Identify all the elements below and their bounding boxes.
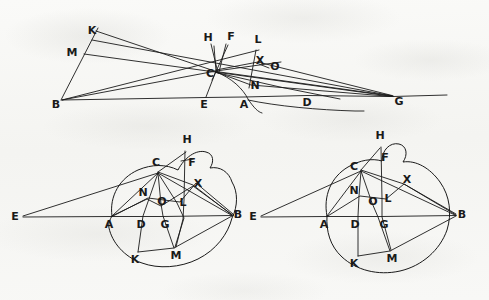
bl-line-C-H [158,152,186,172]
point-label-l: L [179,196,186,209]
point-label-g: G [379,218,388,231]
diagram-page: BKMECHFANLXODGEACHFXNOLDGBKMEACHFXNOLDGB… [0,0,489,300]
point-label-d: D [350,218,359,231]
bl-line-K-B [138,216,232,252]
point-label-o: O [157,195,166,208]
top-line-K-G [92,40,393,96]
bl-line-A-C [112,173,158,216]
point-label-h: H [182,133,191,146]
br-line-E-B [261,216,456,218]
br-line-K-B [358,216,456,256]
point-label-n: N [349,184,358,197]
point-label-e: E [249,210,257,223]
point-label-b: B [458,208,466,221]
point-label-d: D [136,218,145,231]
point-label-k: K [88,24,97,37]
point-label-x: X [194,177,203,190]
br-line-C-H [361,148,380,170]
top-line-B-L [62,50,259,100]
point-label-m: M [67,46,78,59]
point-label-a: A [320,218,329,231]
point-label-b: B [52,98,60,111]
point-label-b: B [234,208,242,221]
point-label-c: C [350,160,358,173]
point-label-l: L [384,192,391,205]
point-label-d: D [302,96,311,109]
point-labels-layer: BKMECHFANLXODGEACHFXNOLDGBKMEACHFXNOLDGB… [11,24,466,270]
bl-line-C-O-G-M [158,173,174,248]
point-label-e: E [11,210,19,223]
point-label-h: H [203,31,212,44]
point-label-x: X [403,173,412,186]
point-label-c: C [152,156,160,169]
top-line-M-G [84,54,393,97]
top-line-B-C-O [62,62,281,100]
point-label-k: K [131,253,140,266]
top-line-F-upright [219,44,226,72]
point-label-g: G [394,95,403,108]
point-label-k: K [350,257,359,270]
top-line-B-K-ray [61,28,98,100]
point-label-l: L [254,33,261,46]
point-label-f: F [188,156,196,169]
point-label-n: N [138,186,147,199]
point-label-f: F [381,151,389,164]
top-line-Cpencil-G [96,31,393,96]
bl-line-A-N-X [112,183,233,217]
bl-line-E-B [23,216,232,218]
bl-line-C-N-K [138,173,158,252]
point-label-e: E [200,98,208,111]
point-label-o: O [270,60,279,73]
point-label-n: N [250,79,259,92]
point-label-x: X [256,54,265,67]
point-label-a: A [105,218,114,231]
point-label-a: A [240,98,249,111]
point-label-m: M [387,252,398,265]
bottom-left-figure [23,151,237,267]
point-label-c: C [206,67,214,80]
br-line-E-C [261,171,361,216]
point-label-f: F [227,30,235,43]
point-label-h: H [375,129,384,142]
point-label-g: G [160,218,169,231]
point-label-m: M [171,249,182,262]
point-label-o: O [368,195,377,208]
bottom-right-figure [261,144,456,273]
figures-svg: BKMECHFANLXODGEACHFXNOLDGBKMEACHFXNOLDGB… [0,0,489,300]
